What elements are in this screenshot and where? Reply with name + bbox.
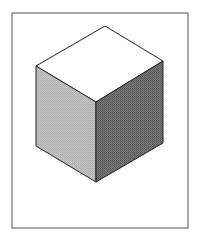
cube	[36, 26, 163, 182]
cube-illustration	[0, 0, 198, 236]
